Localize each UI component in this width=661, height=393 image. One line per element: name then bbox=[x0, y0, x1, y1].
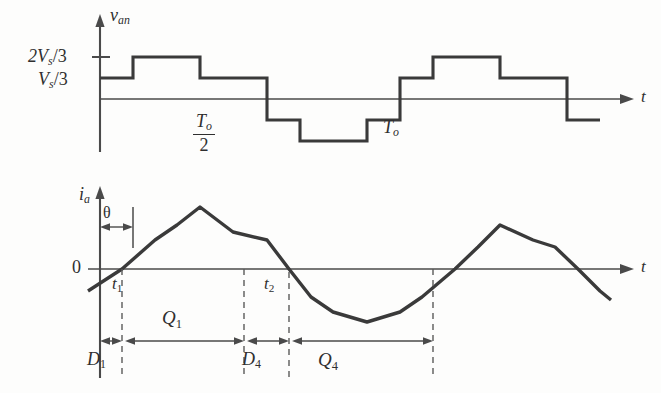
period-label: To bbox=[383, 118, 399, 139]
waveform-figure bbox=[0, 0, 661, 393]
voltage-tick-label-2vs3: 2Vs/3 bbox=[28, 47, 67, 68]
current-t-axis bbox=[88, 264, 634, 274]
conduction-label-q4: Q4 bbox=[318, 350, 338, 372]
voltage-t-axis bbox=[100, 94, 634, 104]
voltage-y-axis bbox=[95, 14, 104, 152]
phase-angle-label: θ bbox=[103, 205, 111, 221]
voltage-plot bbox=[92, 14, 634, 152]
conduction-label-d4: D4 bbox=[242, 350, 261, 371]
zero-crossing-label-t2: t2 bbox=[264, 275, 274, 294]
interval-arrows bbox=[100, 324, 433, 378]
current-axis-label: ia bbox=[79, 185, 90, 206]
conduction-label-q1: Q1 bbox=[162, 308, 182, 330]
voltage-axis-label: van bbox=[110, 6, 130, 27]
current-time-axis-label: t bbox=[641, 258, 646, 275]
voltage-tick-label-vs3: Vs/3 bbox=[38, 70, 68, 91]
voltage-time-axis-label: t bbox=[641, 88, 646, 105]
current-plot bbox=[88, 186, 634, 378]
current-waveform bbox=[88, 207, 611, 322]
conduction-label-d1: D1 bbox=[87, 350, 106, 371]
zero-crossing-label-t1: t1 bbox=[112, 275, 122, 294]
half-period-label: To 2 bbox=[193, 112, 215, 154]
current-zero-label: 0 bbox=[72, 258, 81, 276]
